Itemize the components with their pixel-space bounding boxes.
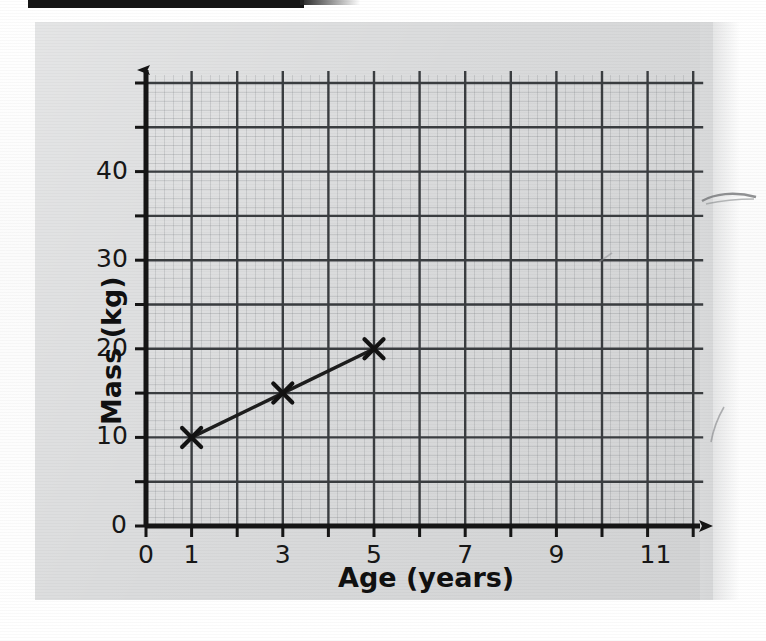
- page-background: 01357911 010203040 Mass (kg) Age (years): [0, 0, 766, 641]
- x-tick-label: 1: [184, 540, 200, 569]
- y-tick-label: 0: [111, 510, 127, 539]
- x-tick-label: 9: [548, 540, 564, 569]
- x-tick-label: 0: [138, 540, 154, 569]
- y-tick-label: 30: [96, 244, 128, 273]
- x-tick-label: 3: [275, 540, 291, 569]
- vertical-gridlines: [192, 71, 694, 526]
- y-axis-title: Mass (kg): [96, 276, 127, 425]
- x-tick-label: 11: [640, 540, 672, 569]
- horizontal-gridlines: [146, 83, 703, 482]
- y-tick-label: 10: [96, 421, 128, 450]
- x-axis-title: Age (years): [338, 562, 514, 593]
- y-tick-label: 40: [96, 156, 128, 185]
